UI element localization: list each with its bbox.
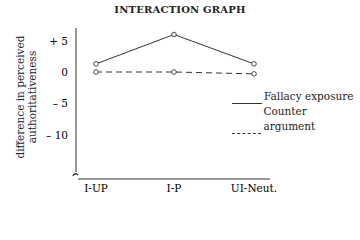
data-point-marker-icon [172,70,177,75]
data-point-marker-icon [94,70,99,75]
legend-item-counter: Counter argument [232,104,360,134]
x-tick-label: I-P [167,182,182,194]
x-tick-label: UI-Neut. [231,182,277,194]
data-point-marker-icon [252,72,257,77]
data-point-marker-icon [94,62,99,67]
dashed-line-swatch-icon [232,125,261,134]
legend-label: Fallacy exposure [264,89,354,104]
solid-line-swatch-icon [232,95,262,104]
legend-label: Counter argument [263,104,360,134]
y-tick-label: – 10 [46,129,68,141]
x-tick-label: I-UP [84,182,108,194]
y-tick-label: + 5 [49,35,68,47]
fallacy-exposure-line [96,35,254,64]
axis-break-icon [73,174,78,176]
y-tick-label: 0 [61,66,68,78]
legend-item-fallacy: Fallacy exposure [232,89,360,104]
y-tick-label: – 5 [53,97,68,109]
data-point-marker-icon [172,32,177,37]
legend: Fallacy exposure Counter argument [232,89,360,134]
data-point-marker-icon [252,62,257,67]
